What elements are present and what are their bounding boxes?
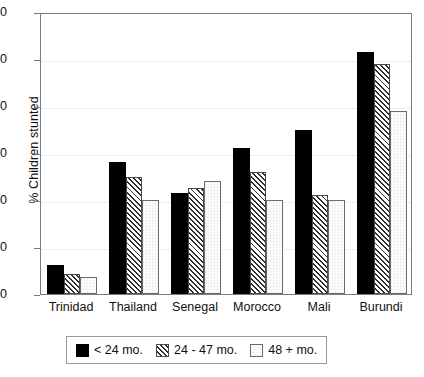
y-tick-label: 20 [0,194,7,207]
y-tick-label: 60 [0,6,7,19]
gridline [41,202,411,203]
bar [64,274,81,294]
legend-swatch-icon [250,344,263,357]
bar [188,188,205,294]
legend-entry: < 24 mo. [76,343,143,357]
legend-entry: 24 - 47 mo. [156,343,237,357]
bar [328,200,345,294]
y-tick-label: 40 [0,100,7,113]
bar-chart: % Children stunted 0102030405060 Trinida… [0,0,424,377]
plot-area [40,13,412,295]
legend-label: 48 + mo. [268,343,317,357]
bar [357,52,374,294]
bar [390,111,407,294]
gridline [41,108,411,109]
gridline [41,61,411,62]
y-tick-mark [34,295,40,296]
bar [204,181,221,294]
y-tick-label: 10 [0,241,7,254]
bar [250,172,267,294]
bar [142,200,159,294]
bar [126,177,143,295]
bar [374,64,391,294]
bar [80,277,97,294]
bar [312,195,329,294]
chart-legend: < 24 mo.24 - 47 mo.48 + mo. [66,336,327,364]
legend-swatch-icon [76,344,89,357]
legend-label: 24 - 47 mo. [174,343,237,357]
y-tick-label: 30 [0,147,7,160]
gridline [41,155,411,156]
y-axis-title: % Children stunted [27,55,41,245]
x-tick-label: Burundi [344,300,418,314]
bar [171,193,188,294]
bar [266,200,283,294]
legend-entry: 48 + mo. [250,343,317,357]
bar [47,265,64,294]
bar [295,130,312,295]
legend-swatch-icon [156,344,169,357]
y-tick-label: 0 [0,288,7,301]
bar [109,162,126,294]
bar [233,148,250,294]
y-tick-label: 50 [0,53,7,66]
gridline [41,249,411,250]
legend-label: < 24 mo. [94,343,143,357]
